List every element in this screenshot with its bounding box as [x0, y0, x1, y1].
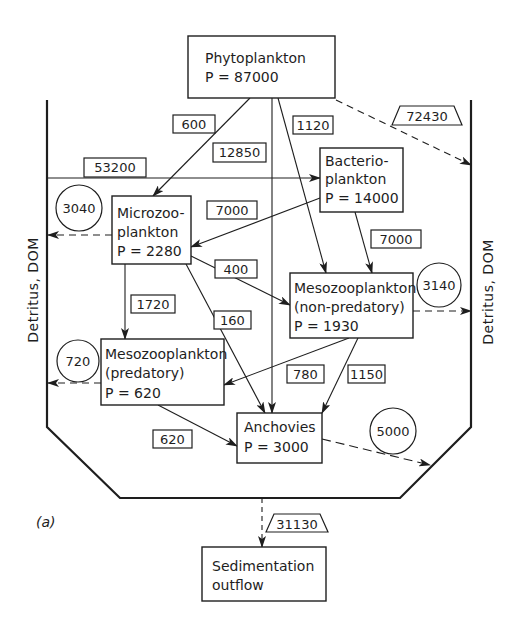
microzooplankton-name-2: plankton: [117, 224, 178, 240]
flow-value-1150: 1150: [350, 367, 383, 382]
flow-value-780: 780: [293, 367, 318, 382]
food-web-diagram: Detritus, DOM Detritus, DOM: [0, 0, 524, 631]
flow-value-5000: 5000: [376, 424, 409, 439]
flow-value-12850: 12850: [219, 145, 260, 160]
mesozoo-nonpred-name-2: (non-predatory): [294, 299, 405, 315]
bacterioplankton-name-1: Bacterio-: [325, 153, 389, 169]
mesozoo-pred-production: P = 620: [105, 385, 161, 401]
sedimentation-name-2: outflow: [212, 577, 264, 593]
phytoplankton-production: P = 87000: [205, 69, 279, 85]
flow-value-400: 400: [224, 262, 249, 277]
panel-label: (a): [36, 514, 56, 530]
bacterioplankton-production: P = 14000: [325, 190, 399, 206]
bacterioplankton-name-2: plankton: [325, 171, 386, 187]
flow-value-3040: 3040: [62, 201, 95, 216]
microzooplankton-name-1: Microzoo-: [117, 205, 184, 221]
flow-value-1720: 1720: [136, 297, 169, 312]
sedimentation-name-1: Sedimentation: [212, 558, 314, 574]
phytoplankton-name: Phytoplankton: [205, 50, 306, 66]
flow-value-31130: 31130: [276, 517, 317, 532]
flow-value-160: 160: [220, 313, 245, 328]
flow-value-620: 620: [160, 432, 185, 447]
flow-value-720: 720: [66, 354, 91, 369]
mesozoo-pred-name-2: (predatory): [105, 365, 184, 381]
flow-value-600: 600: [182, 117, 207, 132]
flow-value-53200: 53200: [94, 160, 135, 175]
flow-value-7000-a: 7000: [215, 203, 248, 218]
right-detritus-label: Detritus, DOM: [480, 239, 496, 344]
node-phytoplankton: [188, 36, 335, 98]
flow-value-72430: 72430: [406, 109, 447, 124]
flow-value-3140: 3140: [422, 278, 455, 293]
flow-bacterio-to-mesonp: [355, 212, 372, 273]
mesozoo-pred-name-1: Mesozooplankton: [105, 346, 227, 362]
flow-value-7000-b: 7000: [379, 232, 412, 247]
flow-value-1120: 1120: [296, 118, 329, 133]
mesozoo-nonpred-production: P = 1930: [294, 318, 359, 334]
microzooplankton-production: P = 2280: [117, 243, 182, 259]
mesozoo-nonpred-name-1: Mesozooplankton: [294, 280, 416, 296]
anchovies-production: P = 3000: [244, 439, 309, 455]
anchovies-name: Anchovies: [244, 419, 316, 435]
left-detritus-label: Detritus, DOM: [25, 237, 41, 342]
